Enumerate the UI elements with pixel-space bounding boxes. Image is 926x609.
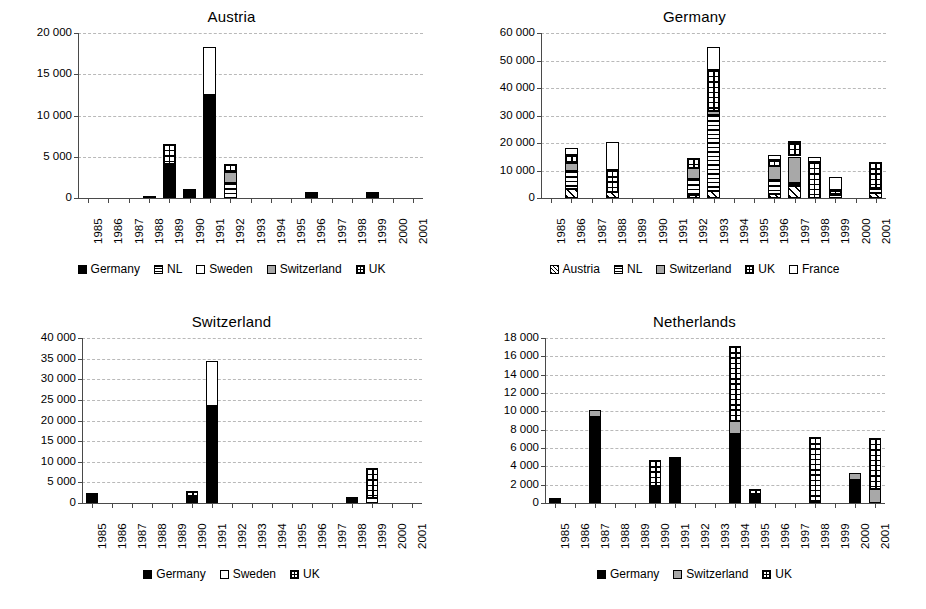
bar-segment[interactable]	[749, 489, 761, 494]
bar-segment[interactable]	[589, 410, 601, 417]
bar-segment[interactable]	[707, 70, 720, 111]
legend-item[interactable]: Germany	[78, 262, 140, 276]
bar-segment[interactable]	[729, 346, 741, 421]
bar-segment[interactable]	[768, 180, 781, 194]
bar-segment[interactable]	[729, 434, 741, 503]
bar-segment[interactable]	[565, 155, 578, 163]
legend-item[interactable]: NL	[154, 262, 182, 276]
legend-item[interactable]: Sweden	[196, 262, 252, 276]
bar-segment[interactable]	[163, 164, 176, 166]
bar-segment[interactable]	[203, 47, 216, 96]
bar-segment[interactable]	[565, 189, 578, 198]
bar-stack[interactable]	[565, 148, 578, 198]
bar-segment[interactable]	[869, 188, 882, 194]
bar-segment[interactable]	[869, 162, 882, 187]
bar-segment[interactable]	[163, 144, 176, 164]
bar-segment[interactable]	[707, 47, 720, 70]
bar-segment[interactable]	[346, 497, 358, 500]
bar-segment[interactable]	[829, 177, 842, 190]
bar-stack[interactable]	[808, 157, 821, 198]
bar-segment[interactable]	[606, 142, 619, 170]
bar-segment[interactable]	[809, 437, 821, 503]
bar-stack[interactable]	[86, 493, 98, 503]
bar-stack[interactable]	[707, 47, 720, 198]
bar-segment[interactable]	[707, 115, 720, 191]
bar-stack[interactable]	[206, 361, 218, 503]
bar-stack[interactable]	[186, 491, 198, 503]
legend-item[interactable]: Germany	[597, 567, 659, 581]
bar-segment[interactable]	[206, 406, 218, 503]
bar-segment[interactable]	[788, 186, 801, 198]
bar-segment[interactable]	[849, 480, 861, 503]
bar-segment[interactable]	[186, 496, 198, 503]
bar-stack[interactable]	[366, 468, 378, 503]
bar-segment[interactable]	[669, 457, 681, 503]
bar-segment[interactable]	[366, 468, 378, 497]
bar-segment[interactable]	[729, 421, 741, 434]
bar-stack[interactable]	[849, 473, 861, 503]
bar-segment[interactable]	[649, 460, 661, 486]
bar-segment[interactable]	[687, 179, 700, 195]
bar-stack[interactable]	[606, 142, 619, 198]
legend-item[interactable]: UK	[745, 262, 775, 276]
legend-item[interactable]: Switzerland	[267, 262, 342, 276]
bar-stack[interactable]	[203, 47, 216, 198]
legend-item[interactable]: Switzerland	[656, 262, 731, 276]
bar-segment[interactable]	[186, 491, 198, 496]
legend-item[interactable]: UK	[356, 262, 386, 276]
legend-item[interactable]: Austria	[550, 262, 600, 276]
bar-segment[interactable]	[687, 158, 700, 168]
bar-segment[interactable]	[788, 157, 801, 184]
bar-stack[interactable]	[183, 190, 196, 198]
bar-segment[interactable]	[849, 473, 861, 480]
bar-stack[interactable]	[829, 177, 842, 198]
legend-item[interactable]: NL	[614, 262, 642, 276]
bar-segment[interactable]	[565, 148, 578, 155]
bar-stack[interactable]	[788, 142, 801, 198]
bar-segment[interactable]	[808, 162, 821, 198]
bar-stack[interactable]	[729, 346, 741, 503]
bar-segment[interactable]	[606, 170, 619, 192]
bar-segment[interactable]	[305, 192, 318, 194]
bar-segment[interactable]	[869, 438, 881, 489]
legend-item[interactable]: Sweden	[220, 567, 276, 581]
legend-item[interactable]: UK	[762, 567, 792, 581]
bar-stack[interactable]	[669, 457, 681, 503]
bar-segment[interactable]	[687, 168, 700, 179]
bar-stack[interactable]	[869, 438, 881, 503]
bar-segment[interactable]	[224, 172, 237, 183]
bar-segment[interactable]	[788, 143, 801, 156]
bar-segment[interactable]	[224, 164, 237, 172]
bar-segment[interactable]	[829, 190, 842, 194]
bar-stack[interactable]	[869, 162, 882, 198]
bar-segment[interactable]	[163, 166, 176, 198]
bar-segment[interactable]	[707, 191, 720, 198]
bar-segment[interactable]	[869, 489, 881, 503]
bar-segment[interactable]	[565, 171, 578, 189]
bar-segment[interactable]	[768, 160, 781, 166]
bar-stack[interactable]	[163, 144, 176, 198]
bar-segment[interactable]	[206, 361, 218, 406]
bar-stack[interactable]	[768, 155, 781, 198]
bar-segment[interactable]	[649, 486, 661, 503]
legend-item[interactable]: UK	[290, 567, 320, 581]
bar-segment[interactable]	[768, 155, 781, 160]
bar-segment[interactable]	[707, 111, 720, 114]
bar-segment[interactable]	[203, 95, 216, 198]
bar-segment[interactable]	[86, 493, 98, 503]
bar-stack[interactable]	[809, 437, 821, 503]
legend-item[interactable]: Switzerland	[673, 567, 748, 581]
bar-segment[interactable]	[565, 163, 578, 172]
bar-segment[interactable]	[366, 192, 379, 194]
bar-segment[interactable]	[589, 417, 601, 503]
bar-segment[interactable]	[768, 166, 781, 180]
bar-segment[interactable]	[788, 183, 801, 186]
bar-segment[interactable]	[788, 141, 801, 143]
legend-item[interactable]: Germany	[143, 567, 205, 581]
bar-stack[interactable]	[649, 460, 661, 503]
bar-stack[interactable]	[224, 164, 237, 198]
bar-stack[interactable]	[749, 489, 761, 503]
bar-stack[interactable]	[687, 158, 700, 198]
bar-segment[interactable]	[749, 494, 761, 503]
bar-segment[interactable]	[183, 191, 196, 198]
